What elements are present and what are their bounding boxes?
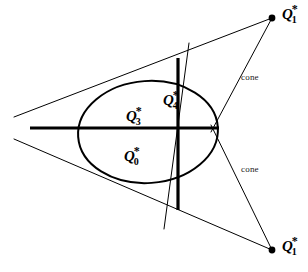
label-q0-superscript: *	[134, 144, 140, 158]
label-cone-lower: cone	[241, 164, 259, 174]
label-q1-bottom-superscript: *	[292, 234, 298, 248]
lower-cone-ray	[211, 125, 272, 250]
label-q1-bottom: Q1*	[282, 238, 304, 254]
label-q4: Q4*	[163, 92, 185, 108]
label-q1-top-superscript: *	[292, 2, 298, 16]
label-q3-superscript: *	[136, 104, 142, 118]
q1-bottom-point-marker	[269, 247, 276, 254]
q1-top-point-marker	[269, 15, 276, 22]
label-q0: Q0*	[124, 148, 146, 164]
label-cone-upper: cone	[241, 72, 259, 82]
label-q3: Q3*	[126, 108, 148, 124]
conic-ellipse	[75, 76, 222, 188]
upper-tangent-line	[14, 18, 272, 117]
label-q1-top: Q1*	[282, 6, 304, 22]
label-q4-superscript: *	[173, 88, 179, 102]
geometry-svg	[0, 0, 308, 272]
diagram-canvas: Q1* Q1* Q4* Q3* Q0* cone cone	[0, 0, 308, 272]
